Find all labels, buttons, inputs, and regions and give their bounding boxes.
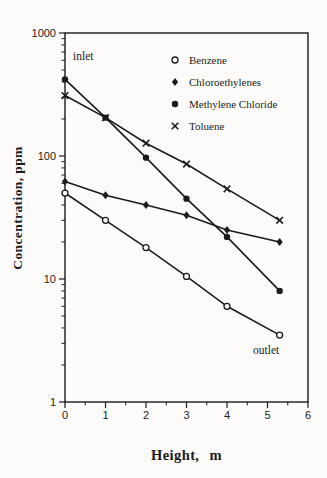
legend-label-methylene-chloride: Methylene Chloride	[189, 98, 277, 110]
series-line-methylene-chloride	[65, 79, 280, 291]
concentration-vs-height-figure: 11010010000123456BenzeneChloroethylenesM…	[0, 0, 327, 478]
y-tick-label: 1	[50, 396, 56, 408]
y-tick-label: 10	[44, 273, 56, 285]
annotation-outlet: outlet	[253, 344, 279, 356]
marker-benzene	[103, 217, 109, 223]
marker-chloroethylenes	[224, 226, 230, 234]
marker-benzene	[143, 245, 149, 251]
series-line-chloroethylenes	[65, 182, 280, 242]
legend-marker-methylene-chloride	[172, 101, 178, 107]
marker-methylene-chloride	[276, 288, 282, 294]
marker-methylene-chloride	[143, 154, 149, 160]
marker-chloroethylenes	[143, 201, 149, 209]
marker-chloroethylenes	[102, 191, 108, 199]
marker-benzene	[184, 273, 190, 279]
x-tick-label: 3	[183, 409, 189, 421]
y-tick-label: 1000	[32, 27, 56, 39]
series-line-benzene	[65, 193, 280, 335]
marker-methylene-chloride	[183, 195, 189, 201]
marker-benzene	[277, 332, 283, 338]
x-tick-label: 4	[224, 409, 230, 421]
x-tick-label: 6	[305, 409, 311, 421]
chart-plot-area: 11010010000123456BenzeneChloroethylenesM…	[0, 0, 327, 478]
y-axis-title: Concentration, ppm	[10, 98, 28, 318]
annotation-inlet: inlet	[73, 50, 93, 62]
legend-label-chloroethylenes: Chloroethylenes	[189, 76, 261, 88]
x-tick-label: 2	[143, 409, 149, 421]
marker-methylene-chloride	[224, 234, 230, 240]
legend-marker-chloroethylenes	[172, 78, 178, 86]
x-axis-title: Height, m	[65, 447, 308, 464]
marker-chloroethylenes	[62, 178, 68, 186]
y-tick-label: 100	[38, 150, 56, 162]
marker-chloroethylenes	[183, 211, 189, 219]
marker-methylene-chloride	[62, 76, 68, 82]
x-tick-label: 5	[264, 409, 270, 421]
legend-label-benzene: Benzene	[189, 54, 227, 66]
legend-label-toluene: Toluene	[189, 120, 224, 132]
marker-chloroethylenes	[277, 238, 283, 246]
x-tick-label: 1	[102, 409, 108, 421]
marker-benzene	[224, 303, 230, 309]
series-line-toluene	[65, 96, 280, 221]
x-tick-label: 0	[62, 409, 68, 421]
legend-marker-benzene	[172, 57, 178, 63]
marker-benzene	[62, 190, 68, 196]
